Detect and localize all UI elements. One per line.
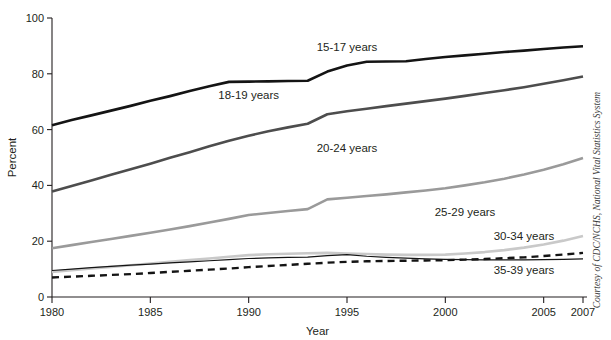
series-label-35-39-years: 35-39 years xyxy=(494,264,555,276)
chart-series xyxy=(52,46,583,277)
series-label-20-24-years: 20-24 years xyxy=(317,142,378,154)
x-tick-label: 1990 xyxy=(236,306,260,318)
x-axis-title: Year xyxy=(306,325,329,337)
y-tick-label: 80 xyxy=(32,68,44,80)
series-label-25-29-years: 25-29 years xyxy=(435,206,496,218)
chart-series-labels: 15-17 years18-19 years20-24 years25-29 y… xyxy=(218,41,554,276)
line-chart: 0204060801001980198519901995200020052007… xyxy=(0,0,611,340)
y-tick-label: 0 xyxy=(38,291,44,303)
x-tick-label: 1985 xyxy=(138,306,162,318)
chart-container: 0204060801001980198519901995200020052007… xyxy=(0,0,611,340)
series-line-18-19-years xyxy=(52,77,583,192)
x-tick-label: 1980 xyxy=(40,306,64,318)
x-tick-label: 2005 xyxy=(531,306,555,318)
x-tick-label: 2000 xyxy=(433,306,457,318)
chart-credit: Courtesy of CDC/NCHS, National Vital Sta… xyxy=(592,92,602,309)
y-tick-label: 100 xyxy=(26,12,44,24)
x-tick-label: 1995 xyxy=(335,306,359,318)
series-label-15-17-years: 15-17 years xyxy=(317,41,378,53)
series-line-15-17-years xyxy=(52,46,583,125)
series-label-18-19-years: 18-19 years xyxy=(218,89,279,101)
y-tick-label: 40 xyxy=(32,179,44,191)
credit-text: Courtesy of CDC/NCHS, National Vital Sta… xyxy=(592,92,602,309)
series-label-30-34-years: 30-34 years xyxy=(494,230,555,242)
y-tick-label: 60 xyxy=(32,124,44,136)
y-tick-label: 20 xyxy=(32,235,44,247)
y-axis-title: Percent xyxy=(6,137,18,177)
